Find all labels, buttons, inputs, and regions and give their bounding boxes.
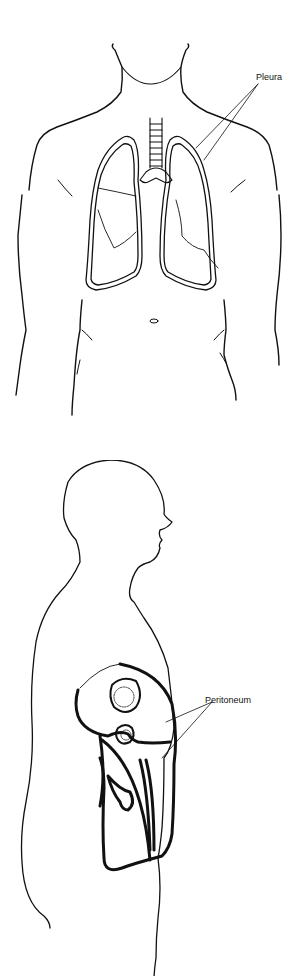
- body-side-illustration: [0, 460, 301, 976]
- front-view-figure: Pleura: [0, 0, 301, 460]
- pleura-leader-1: [196, 84, 258, 148]
- pleura-leader-2: [204, 84, 258, 160]
- organ-circle-large: [114, 687, 134, 707]
- side-view-figure: Peritoneum: [0, 460, 301, 976]
- left-lung: [86, 136, 142, 290]
- pleura-label: Pleura: [256, 72, 282, 82]
- peritoneum-leader-2: [162, 702, 212, 758]
- right-lung: [160, 136, 218, 290]
- peritoneum-label: Peritoneum: [205, 695, 251, 705]
- torso-front-illustration: [0, 0, 301, 460]
- navel: [150, 319, 158, 323]
